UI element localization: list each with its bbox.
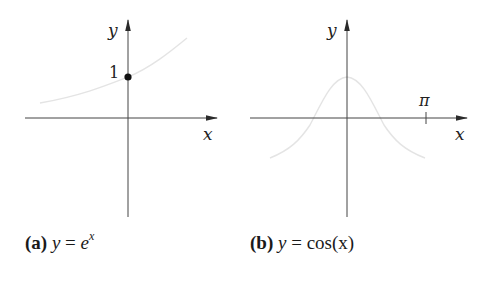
plot-cosine: π y x <box>250 20 467 217</box>
caption-eq: = <box>286 232 306 253</box>
y-axis-label: y <box>326 20 337 40</box>
caption-fn: cos <box>307 232 332 253</box>
point-label-1: 1 <box>109 63 119 82</box>
caption-exponent: x <box>89 229 94 243</box>
plot-exponential: y 1 x <box>25 20 217 217</box>
caption-tag: (b) <box>250 232 273 253</box>
point-0-1 <box>124 73 131 80</box>
caption-tag: (a) <box>25 232 47 253</box>
caption-base: e <box>81 232 89 253</box>
x-axis-label: x <box>455 124 465 144</box>
caption-b: (b) y = cos(x) <box>250 232 354 254</box>
caption-a: (a) y = ex <box>25 232 94 254</box>
caption-eq: = <box>60 232 80 253</box>
caption-arg: (x) <box>332 232 354 253</box>
pi-tick-label: π <box>418 91 430 110</box>
x-axis-label: x <box>203 124 213 144</box>
y-axis-label: y <box>107 20 118 40</box>
